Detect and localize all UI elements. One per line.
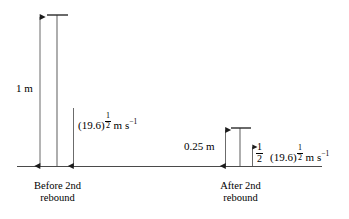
- before-height-label: 1 m: [16, 82, 33, 94]
- before-caption-line1: Before 2nd: [15, 180, 100, 192]
- after-velocity-units: m s: [306, 151, 322, 163]
- after-velocity-coefficient: 12: [256, 142, 263, 164]
- before-caption: Before 2nd rebound: [15, 180, 100, 203]
- after-velocity-exponent: 12: [297, 144, 304, 162]
- after-caption: After 2nd rebound: [198, 180, 283, 203]
- after-height-label: 0.25 m: [184, 140, 215, 152]
- physics-diagram: 1 m (19.6)12m s−1 0.25 m 12 (19.6)12m s−…: [0, 0, 349, 219]
- before-velocity-label: (19.6)12m s−1: [78, 113, 137, 131]
- after-velocity-base: (19.6): [270, 151, 297, 163]
- after-units-exponent: −1: [321, 149, 329, 158]
- before-velocity-exponent: 12: [105, 112, 112, 130]
- after-caption-line2: rebound: [198, 192, 283, 204]
- after-coeff-num: 1: [256, 142, 263, 154]
- before-exp-den: 2: [105, 122, 111, 131]
- after-coeff-den: 2: [256, 154, 263, 165]
- before-caption-line2: rebound: [15, 192, 100, 204]
- after-velocity-label: (19.6)12m s−1: [270, 145, 329, 163]
- after-caption-line1: After 2nd: [198, 180, 283, 192]
- after-exp-den: 2: [297, 154, 303, 163]
- before-units-exponent: −1: [129, 117, 137, 126]
- before-velocity-units: m s: [114, 119, 130, 131]
- before-velocity-base: (19.6): [78, 119, 105, 131]
